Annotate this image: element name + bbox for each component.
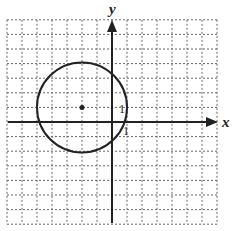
x-tick-label: 1 xyxy=(123,124,129,138)
y-tick-label: 1 xyxy=(119,102,125,116)
x-axis-label: x xyxy=(221,114,230,130)
y-axis-arrow-icon xyxy=(107,20,117,32)
circle-center-point xyxy=(80,105,85,110)
coordinate-plane: x y 1 1 xyxy=(0,0,240,231)
y-axis-label: y xyxy=(107,1,116,17)
x-axis-arrow-icon xyxy=(206,117,218,127)
